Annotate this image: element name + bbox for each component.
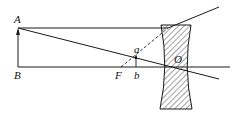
label-a: a [134,44,140,55]
label-A: A [14,14,21,25]
label-B: B [14,70,21,81]
label-b: b [134,70,140,81]
label-O: O [174,54,182,65]
object-arrowhead [16,28,20,35]
refracted-ray-diverging [168,7,219,28]
ray-diagram: A B F O a b [0,0,242,119]
label-F: F [115,70,122,81]
virtual-ray-extension [121,28,168,67]
diagram-canvas [0,0,242,119]
